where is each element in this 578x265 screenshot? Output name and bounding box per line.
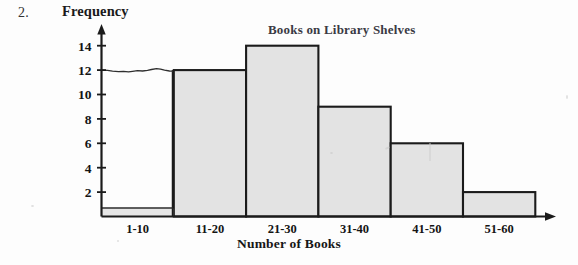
y-axis — [97, 24, 105, 217]
x-tick-label-group: 1-1011-2021-3031-4041-5051-60 — [126, 222, 514, 236]
y-tick-label: 4 — [85, 161, 92, 176]
bar-31-40 — [318, 107, 390, 217]
x-label-1-10: 1-10 — [126, 222, 149, 236]
histogram-plot: 2468101214 1-1011-2021-3031-4041-5051-60 — [0, 0, 578, 265]
bars-group — [174, 46, 536, 217]
x-label-41-50: 41-50 — [412, 222, 441, 236]
scan-speckle — [31, 205, 34, 207]
bar-41-50 — [391, 143, 463, 216]
worksheet-page: 2. Frequency Books on Library Shelves 24… — [0, 0, 578, 265]
x-label-21-30: 21-30 — [268, 222, 297, 236]
y-tick-label: 8 — [85, 112, 92, 127]
bar-21-30 — [246, 46, 318, 217]
scan-speckle — [566, 95, 568, 99]
x-axis-arrow-icon — [545, 212, 556, 221]
scan-speckle — [117, 240, 119, 242]
x-label-11-20: 11-20 — [196, 222, 224, 236]
x-label-31-40: 31-40 — [340, 222, 369, 236]
bar-1-10-unfilled — [102, 69, 174, 217]
y-tick-label: 6 — [85, 136, 92, 151]
y-tick-label: 10 — [78, 87, 92, 102]
x-axis-title: Number of Books — [0, 236, 578, 252]
y-tick-label: 12 — [78, 63, 92, 78]
hand-drawn-top-edge — [102, 69, 173, 72]
bar-51-60 — [463, 192, 535, 216]
scan-speckle — [429, 143, 431, 161]
y-tick-label: 14 — [78, 39, 92, 54]
scan-speckle — [330, 152, 333, 154]
bar-11-20 — [174, 70, 246, 216]
y-axis-arrow-icon — [97, 24, 105, 35]
y-tick-label: 2 — [85, 185, 92, 200]
x-label-51-60: 51-60 — [485, 222, 514, 236]
